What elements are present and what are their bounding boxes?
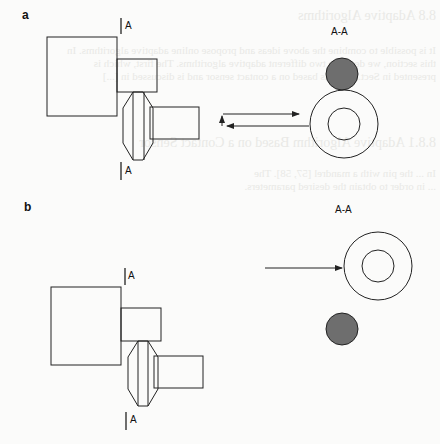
outer-ring bbox=[344, 232, 412, 300]
chuck-body bbox=[47, 37, 117, 116]
panel-label-a: a bbox=[22, 8, 29, 22]
filled-disc bbox=[326, 313, 358, 345]
section-marker-bottom-b: A bbox=[130, 414, 137, 425]
inner-ring bbox=[328, 108, 360, 140]
spindle bbox=[117, 59, 157, 92]
section-marker-bottom-a: A bbox=[125, 165, 132, 176]
figure-diagram bbox=[0, 0, 440, 444]
panel-a-section-view bbox=[222, 58, 378, 158]
panel-a-side-view bbox=[47, 18, 199, 180]
filled-disc bbox=[326, 58, 358, 90]
outer-ring bbox=[310, 90, 378, 158]
panel-b-side-view bbox=[51, 268, 203, 430]
inner-ring bbox=[362, 250, 394, 282]
cutting-tool bbox=[123, 92, 153, 160]
section-title-b: A-A bbox=[335, 204, 352, 215]
spindle bbox=[121, 308, 161, 341]
panel-label-b: b bbox=[24, 200, 31, 214]
panel-b-section-view bbox=[265, 232, 412, 345]
workpiece-shaft bbox=[154, 356, 203, 388]
section-title-a: A-A bbox=[331, 26, 348, 37]
chuck-body bbox=[51, 287, 121, 365]
workpiece-shaft bbox=[150, 107, 199, 139]
section-marker-top-a: A bbox=[125, 20, 132, 31]
section-marker-top-b: A bbox=[128, 270, 135, 281]
